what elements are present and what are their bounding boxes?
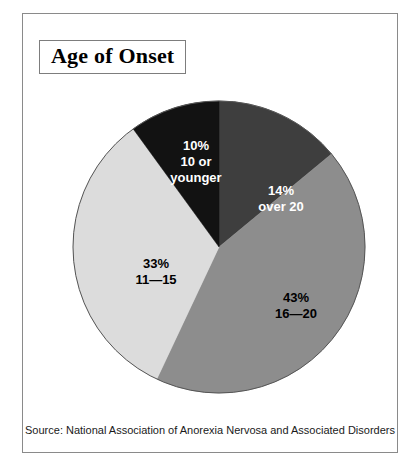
pie-chart-svg <box>23 14 397 452</box>
source-note: Source: National Association of Anorexia… <box>23 423 397 437</box>
pie-chart: 14%over 2043%16—2033%11—1510%10 oryounge… <box>23 14 397 452</box>
figure-frame: Age of Onset 14%over 2043%16—2033%11—151… <box>22 13 398 453</box>
